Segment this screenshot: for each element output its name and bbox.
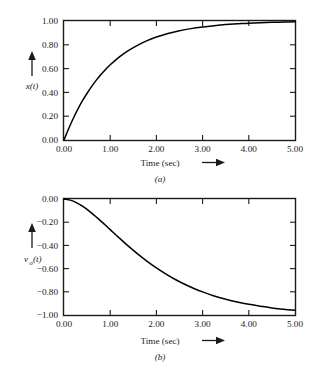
chart-a-x-axis-title-group: Time (sec) xyxy=(140,158,225,168)
chart-b-x-axis-title-group: Time (sec) xyxy=(140,336,225,346)
x-tick-label: 1.00 xyxy=(102,144,118,154)
y-tick-label: −0.60 xyxy=(37,264,59,274)
chart-a-frame xyxy=(64,21,296,141)
chart-b-x-tick-labels: 0.001.002.003.004.005.00 xyxy=(56,319,303,329)
y-tick-label: 0.00 xyxy=(42,135,58,145)
x-tick-label: 5.00 xyxy=(287,144,303,154)
chart-a-x-ticks xyxy=(110,21,249,140)
chart-a-y-axis-label: x(t) xyxy=(25,81,39,91)
chart-b-panel-letter: (b) xyxy=(155,352,166,362)
chart-a-svg: 0.001.002.003.004.005.00 0.000.200.400.6… xyxy=(0,0,320,188)
chart-a-y-ticks xyxy=(64,45,295,116)
chart-a-panel-letter: (a) xyxy=(155,174,166,184)
chart-a-x-axis-label: Time (sec) xyxy=(140,158,179,168)
chart-panel-b: 0.001.002.003.004.005.00 −1.00−0.80−0.60… xyxy=(0,186,320,375)
x-tick-label: 4.00 xyxy=(241,319,257,329)
y-tick-label: −0.40 xyxy=(37,241,59,251)
chart-b-frame xyxy=(64,199,296,316)
x-tick-label: 2.00 xyxy=(148,144,164,154)
chart-b-y-axis-label-group: v o (t) xyxy=(24,254,42,266)
y-tick-label: 0.80 xyxy=(42,40,58,50)
chart-b-y-axis-label-suffix: (t) xyxy=(33,254,42,264)
x-tick-label: 0.00 xyxy=(56,319,72,329)
figure-container: 0.001.002.003.004.005.00 0.000.200.400.6… xyxy=(0,0,320,375)
chart-a-curve xyxy=(64,22,295,140)
chart-a-x-tick-labels: 0.001.002.003.004.005.00 xyxy=(56,144,303,154)
y-tick-label: 0.40 xyxy=(42,88,58,98)
y-tick-label: 0.00 xyxy=(42,194,58,204)
x-tick-label: 2.00 xyxy=(148,319,164,329)
chart-b-curve xyxy=(64,199,295,310)
x-tick-label: 0.00 xyxy=(56,144,72,154)
chart-b-y-axis-arrow-icon xyxy=(28,223,36,248)
x-tick-label: 5.00 xyxy=(287,319,303,329)
chart-a-y-tick-labels: 0.000.200.400.600.801.00 xyxy=(42,16,58,145)
y-tick-label: −1.00 xyxy=(37,310,59,320)
y-tick-label: −0.80 xyxy=(37,287,59,297)
chart-b-y-axis-label: v xyxy=(24,254,29,264)
x-tick-label: 3.00 xyxy=(195,319,211,329)
y-tick-label: 1.00 xyxy=(42,16,58,26)
chart-panel-a: 0.001.002.003.004.005.00 0.000.200.400.6… xyxy=(0,0,320,188)
x-tick-label: 1.00 xyxy=(102,319,118,329)
y-tick-label: 0.20 xyxy=(42,111,58,121)
x-tick-label: 4.00 xyxy=(241,144,257,154)
chart-b-svg: 0.001.002.003.004.005.00 −1.00−0.80−0.60… xyxy=(0,186,320,375)
chart-a-y-axis-arrow-icon xyxy=(28,51,36,76)
chart-b-x-axis-label: Time (sec) xyxy=(140,336,179,346)
y-tick-label: −0.20 xyxy=(37,217,59,227)
x-tick-label: 3.00 xyxy=(195,144,211,154)
y-tick-label: 0.60 xyxy=(42,64,58,74)
chart-b-x-ticks xyxy=(110,199,249,315)
